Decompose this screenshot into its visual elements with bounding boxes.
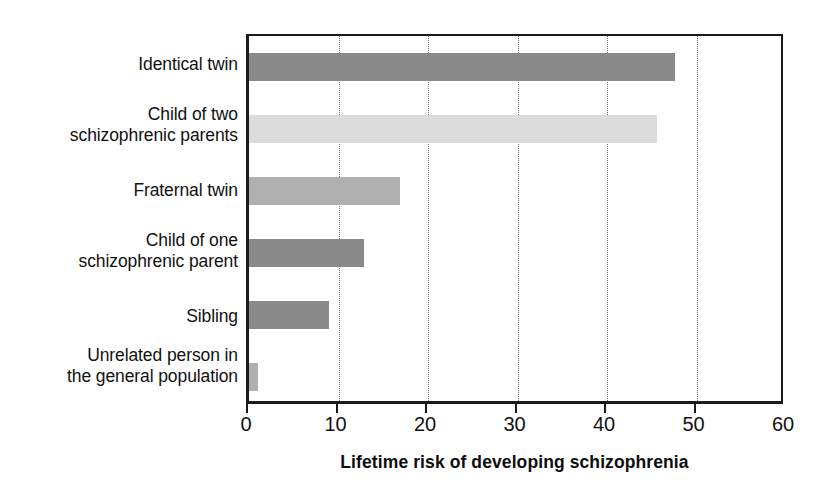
bar-fraternal-twin [249,177,400,205]
gridline-30 [518,36,519,401]
x-axis-title: Lifetime risk of developing schizophreni… [246,452,783,473]
bar-child-of-two-schizophrenic-parents [249,115,657,143]
tick-label-60: 60 [753,413,813,436]
category-label-line: the general population [0,366,238,387]
category-label-line: Sibling [0,306,238,327]
tick-mark-10 [336,404,338,413]
category-label-line: schizophrenic parents [0,125,238,146]
plot-area [246,34,783,404]
chart-figure: Identical twin Child of two schizophreni… [0,0,818,493]
tick-label-0: 0 [216,413,276,436]
bar-sibling [249,301,329,329]
gridline-10 [339,36,340,401]
tick-mark-0 [246,404,248,413]
category-label-child-of-two-schizophrenic-parents: Child of two schizophrenic parents [0,104,238,146]
category-label-line: Identical twin [0,54,238,75]
tick-label-50: 50 [664,413,724,436]
bar-identical-twin [249,53,675,81]
gridline-50 [697,36,698,401]
tick-mark-20 [425,404,427,413]
category-label-sibling: Sibling [0,306,238,327]
category-label-line: schizophrenic parent [0,251,238,272]
tick-label-30: 30 [485,413,545,436]
bar-child-of-one-schizophrenic-parent [249,239,364,267]
category-label-child-of-one-schizophrenic-parent: Child of one schizophrenic parent [0,230,238,272]
bar-unrelated-person [249,363,258,391]
category-label-line: Child of one [0,230,238,251]
category-label-identical-twin: Identical twin [0,54,238,75]
tick-label-10: 10 [306,413,366,436]
category-label-line: Unrelated person in [0,345,238,366]
tick-label-20: 20 [395,413,455,436]
tick-mark-50 [694,404,696,413]
tick-mark-40 [604,404,606,413]
tick-mark-30 [515,404,517,413]
category-label-fraternal-twin: Fraternal twin [0,180,238,201]
category-label-line: Fraternal twin [0,180,238,201]
gridline-40 [607,36,608,401]
tick-label-40: 40 [574,413,634,436]
category-label-line: Child of two [0,104,238,125]
gridline-20 [428,36,429,401]
category-label-unrelated-person: Unrelated person in the general populati… [0,345,238,387]
